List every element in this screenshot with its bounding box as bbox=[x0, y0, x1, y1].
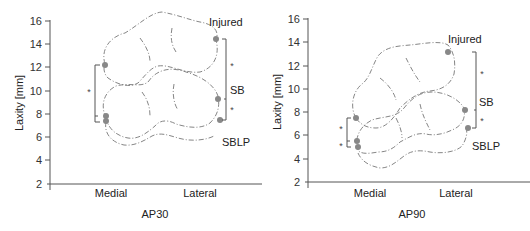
sig-star: * bbox=[339, 141, 343, 151]
bracket-medial bbox=[95, 65, 100, 122]
label-sblp: SBLP bbox=[472, 140, 500, 152]
condyle-line bbox=[420, 104, 430, 130]
tick-16: 16 bbox=[288, 13, 300, 25]
outline-sb bbox=[103, 69, 218, 138]
point-lateral-sb bbox=[462, 107, 468, 113]
tick-6: 6 bbox=[36, 131, 42, 143]
y-ticks: 16 14 12 10 8 6 4 2 bbox=[288, 13, 308, 188]
outline-injured bbox=[353, 43, 455, 128]
y-ticks: 16 14 12 10 8 6 4 2 bbox=[30, 15, 50, 190]
x-label-lateral: Lateral bbox=[183, 187, 217, 199]
tick-8: 8 bbox=[294, 106, 300, 118]
label-sblp: SBLP bbox=[222, 136, 250, 148]
tick-12: 12 bbox=[30, 61, 42, 73]
tick-4: 4 bbox=[294, 153, 300, 165]
bracket-lateral bbox=[472, 52, 476, 128]
x-label-medial: Medial bbox=[95, 187, 127, 199]
sig-star: * bbox=[480, 116, 484, 126]
tick-8: 8 bbox=[36, 108, 42, 120]
y-axis-label: Laxity [mm] bbox=[271, 74, 283, 130]
tick-16: 16 bbox=[30, 15, 42, 27]
sig-star: * bbox=[339, 124, 343, 134]
chart-ap30: 16 14 12 10 8 6 4 2 Laxity [mm] Medial L… bbox=[13, 12, 262, 220]
point-medial-injured bbox=[102, 62, 108, 68]
x-label-lateral: Lateral bbox=[439, 187, 473, 199]
point-medial-sblp bbox=[355, 144, 361, 150]
outline-sb bbox=[357, 92, 465, 153]
tick-10: 10 bbox=[30, 85, 42, 97]
label-sb: SB bbox=[230, 84, 245, 96]
tick-14: 14 bbox=[288, 36, 300, 48]
sig-star: * bbox=[230, 61, 234, 71]
bracket-medial bbox=[347, 118, 351, 147]
condyle-line bbox=[380, 78, 396, 100]
point-lateral-injured bbox=[445, 49, 451, 55]
point-medial-injured bbox=[353, 115, 359, 121]
point-lateral-sblp bbox=[465, 125, 471, 131]
condyle-line bbox=[396, 118, 402, 138]
chart-title-ap30: AP30 bbox=[142, 208, 169, 220]
figure: 16 14 12 10 8 6 4 2 Laxity [mm] Medial L… bbox=[0, 0, 530, 231]
chart-ap90: 16 14 12 10 8 6 4 2 Laxity [mm] Medial L… bbox=[271, 13, 530, 220]
label-injured: Injured bbox=[448, 33, 482, 45]
point-lateral-sb bbox=[215, 96, 221, 102]
chart-title-ap90: AP90 bbox=[399, 208, 426, 220]
tick-6: 6 bbox=[294, 129, 300, 141]
tick-12: 12 bbox=[288, 60, 300, 72]
y-axis-label: Laxity [mm] bbox=[13, 75, 25, 131]
outline-sblp bbox=[358, 128, 467, 168]
condyle-line bbox=[406, 58, 420, 82]
outline-sblp bbox=[106, 122, 214, 145]
sig-star: * bbox=[480, 69, 484, 79]
condyle-line bbox=[171, 28, 176, 52]
tick-10: 10 bbox=[288, 83, 300, 95]
point-medial-sb bbox=[354, 138, 360, 144]
point-lateral-injured bbox=[213, 36, 219, 42]
condyle-line bbox=[173, 84, 178, 110]
tick-4: 4 bbox=[36, 154, 42, 166]
x-label-medial: Medial bbox=[354, 187, 386, 199]
bracket-lateral bbox=[222, 39, 226, 120]
point-medial-sblp bbox=[103, 118, 109, 124]
outline-injured bbox=[104, 12, 217, 85]
label-injured: Injured bbox=[209, 16, 243, 28]
tick-2: 2 bbox=[294, 176, 300, 188]
tick-14: 14 bbox=[30, 38, 42, 50]
label-sb: SB bbox=[479, 96, 494, 108]
sig-star: * bbox=[230, 105, 234, 115]
condyle-line bbox=[142, 92, 150, 116]
condyle-line bbox=[140, 38, 150, 62]
sig-star: * bbox=[87, 87, 91, 97]
tick-2: 2 bbox=[36, 178, 42, 190]
